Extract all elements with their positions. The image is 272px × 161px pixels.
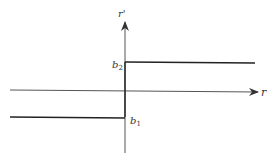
level-b2-line: [125, 62, 255, 63]
level-b2-label: b2: [112, 59, 123, 72]
y-axis-label: r': [118, 8, 126, 19]
x-axis-label: r: [261, 86, 267, 99]
x-axis: [10, 90, 258, 92]
step-diagram: r r' b2 b1: [0, 0, 272, 161]
level-b1-line: [10, 117, 125, 118]
level-b1-label: b1: [130, 115, 141, 128]
